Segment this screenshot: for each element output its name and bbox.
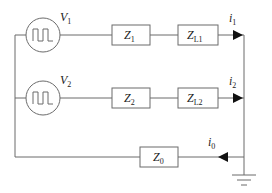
label-i2: i2 [229,74,236,90]
arrow-right-icon [233,30,243,40]
label-i0: i0 [208,135,215,151]
circuit-diagram: V1 V2 Z1 ZL1 Z2 ZL2 Z0 i1 i2 i0 [0,0,272,193]
label-v1: V1 [60,10,71,26]
source-v2 [26,81,60,115]
circuit-svg: V1 V2 Z1 ZL1 Z2 ZL2 Z0 i1 i2 i0 [0,0,272,193]
arrow-left-icon [218,152,228,162]
source-v1 [26,18,60,52]
ground-icon [232,175,256,185]
label-v2: V2 [60,73,71,89]
label-i1: i1 [229,11,236,27]
arrow-right-icon [233,93,243,103]
